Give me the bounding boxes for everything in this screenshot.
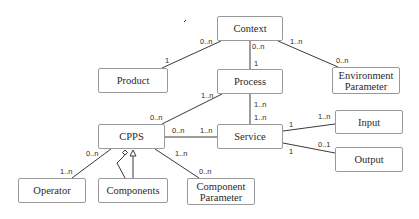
node-process: Process xyxy=(217,69,283,94)
mult-context-process-b: 1 xyxy=(254,60,258,68)
node-label: Output xyxy=(354,154,383,165)
mult-cpps-compparam-b: 0..n xyxy=(199,168,212,176)
stray-mark xyxy=(184,20,186,22)
mult-process-cpps-a: 1..n xyxy=(201,92,214,100)
node-product: Product xyxy=(98,68,168,93)
node-components: Components xyxy=(98,178,168,203)
mult-service-input-a: 1 xyxy=(289,121,293,129)
mult-cpps-compparam-a: 1..n xyxy=(175,150,188,158)
mult-cpps-operator-b: 1..n xyxy=(60,168,73,176)
node-output: Output xyxy=(335,147,403,172)
mult-process-service-b: 1..n xyxy=(254,114,267,122)
mult-context-env-b: 0..n xyxy=(336,57,349,65)
uml-diagram-canvas: Context Product Process Environment Para… xyxy=(0,0,419,219)
node-label: Input xyxy=(358,117,380,128)
mult-context-product-a: 0..n xyxy=(200,38,213,46)
mult-service-output-b: 0..1 xyxy=(318,141,331,149)
mult-cpps-service-a: 0..n xyxy=(172,127,185,135)
node-label: Product xyxy=(117,75,150,86)
mult-process-service-a: 1..n xyxy=(254,101,267,109)
mult-service-input-b: 1..n xyxy=(318,113,331,121)
node-label: Component Parameter xyxy=(196,181,246,203)
node-input: Input xyxy=(335,110,403,134)
node-cpps: CPPS xyxy=(98,124,165,149)
mult-context-product-b: 1 xyxy=(165,57,169,65)
generalization-triangle-icon xyxy=(130,150,136,156)
mult-context-process-a: 0..n xyxy=(252,43,265,51)
node-label: Context xyxy=(233,23,266,34)
edge-context-environment xyxy=(278,41,338,67)
node-label: Environment Parameter xyxy=(339,70,394,92)
node-label: Components xyxy=(106,185,159,196)
node-operator: Operator xyxy=(18,178,86,203)
mult-process-cpps-b: 0..n xyxy=(150,114,163,122)
node-context: Context xyxy=(217,16,283,41)
mult-cpps-service-b: 1..n xyxy=(200,127,213,135)
node-label: CPPS xyxy=(119,131,144,142)
node-label: Operator xyxy=(33,185,70,196)
aggregation-diamond-icon xyxy=(123,150,128,155)
node-service: Service xyxy=(217,124,283,149)
node-label: Process xyxy=(234,76,266,87)
mult-service-output-a: 1 xyxy=(289,148,293,156)
edge-cpps-components-aggregation xyxy=(117,153,125,178)
node-label: Service xyxy=(234,131,266,142)
mult-cpps-operator-a: 0..n xyxy=(86,150,99,158)
node-component-parameter: Component Parameter xyxy=(187,178,255,205)
mult-context-env-a: 1..n xyxy=(290,38,303,46)
node-environment-parameter: Environment Parameter xyxy=(332,67,400,94)
